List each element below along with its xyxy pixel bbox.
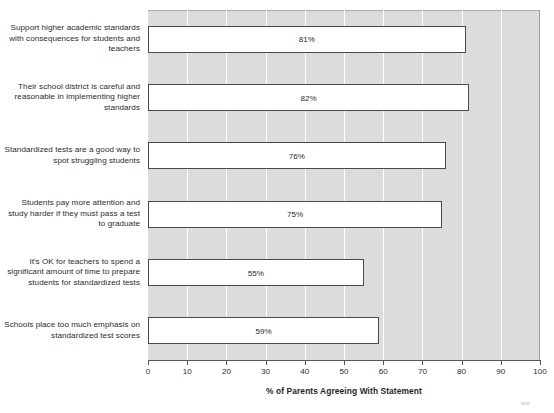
- bar-value-label: 82%: [301, 93, 317, 102]
- x-tick: [422, 360, 423, 365]
- bar-value-label: 81%: [299, 35, 315, 44]
- x-tick-label: 40: [300, 367, 309, 376]
- x-tick-label: 100: [533, 367, 547, 376]
- x-tick-label: 0: [146, 367, 151, 376]
- x-tick: [187, 360, 188, 365]
- x-tick: [305, 360, 306, 365]
- gridline: [305, 10, 306, 360]
- bar: 55%: [148, 259, 364, 286]
- x-tick-label: 30: [261, 367, 270, 376]
- gridline: [383, 10, 384, 360]
- gridline: [226, 10, 227, 360]
- x-tick-label: 10: [183, 367, 192, 376]
- bar: 59%: [148, 317, 379, 344]
- x-tick: [501, 360, 502, 365]
- bar-value-label: 55%: [248, 268, 264, 277]
- category-label: Schools place too much emphasis on stand…: [0, 320, 140, 341]
- gridline: [501, 10, 502, 360]
- bar: 81%: [148, 26, 466, 53]
- category-label: Their school district is careful and rea…: [0, 82, 140, 114]
- gridline: [540, 10, 541, 360]
- gridline: [462, 10, 463, 360]
- x-tick-label: 50: [339, 367, 348, 376]
- x-axis: 0102030405060708090100: [148, 360, 540, 366]
- gridline: [187, 10, 188, 360]
- x-tick: [344, 360, 345, 365]
- bar-value-label: 75%: [287, 210, 303, 219]
- x-tick: [462, 360, 463, 365]
- bar-chart: Support higher academic standards with c…: [0, 0, 554, 413]
- x-tick: [148, 360, 149, 365]
- bar: 76%: [148, 142, 446, 169]
- bar: 75%: [148, 201, 442, 228]
- x-tick-label: 20: [222, 367, 231, 376]
- scan-artifact: [521, 402, 530, 405]
- category-label: Standardized tests are a good way to spo…: [0, 145, 140, 166]
- plot-inner: 81%82%76%75%55%59%: [148, 10, 540, 360]
- x-tick-label: 70: [418, 367, 427, 376]
- x-tick-label: 90: [496, 367, 505, 376]
- category-label: Support higher academic standards with c…: [0, 23, 140, 55]
- bar: 82%: [148, 84, 469, 111]
- x-tick: [226, 360, 227, 365]
- gridline: [344, 10, 345, 360]
- x-tick: [383, 360, 384, 365]
- gridline: [422, 10, 423, 360]
- category-label: It's OK for teachers to spend a signific…: [0, 257, 140, 289]
- gridline: [266, 10, 267, 360]
- bar-value-label: 76%: [289, 151, 305, 160]
- x-axis-title: % of Parents Agreeing With Statement: [148, 386, 540, 396]
- x-tick-label: 60: [379, 367, 388, 376]
- bar-value-label: 59%: [256, 326, 272, 335]
- category-label: Students pay more attention and study ha…: [0, 198, 140, 230]
- category-axis-labels: Support higher academic standards with c…: [0, 10, 144, 360]
- x-tick: [540, 360, 541, 365]
- x-tick: [266, 360, 267, 365]
- x-tick-label: 80: [457, 367, 466, 376]
- plot-area: 81%82%76%75%55%59%: [148, 10, 540, 360]
